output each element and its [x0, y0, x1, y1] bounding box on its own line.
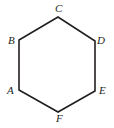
hexagon-outline	[19, 17, 95, 112]
hexagon-shape	[0, 0, 114, 128]
vertex-label-f: F	[56, 113, 63, 124]
hexagon-figure: A B C D E F	[0, 0, 114, 128]
vertex-label-b: B	[8, 35, 15, 46]
vertex-label-c: C	[55, 3, 62, 14]
vertex-label-e: E	[99, 85, 106, 96]
vertex-label-d: D	[97, 35, 105, 46]
vertex-label-a: A	[7, 85, 14, 96]
